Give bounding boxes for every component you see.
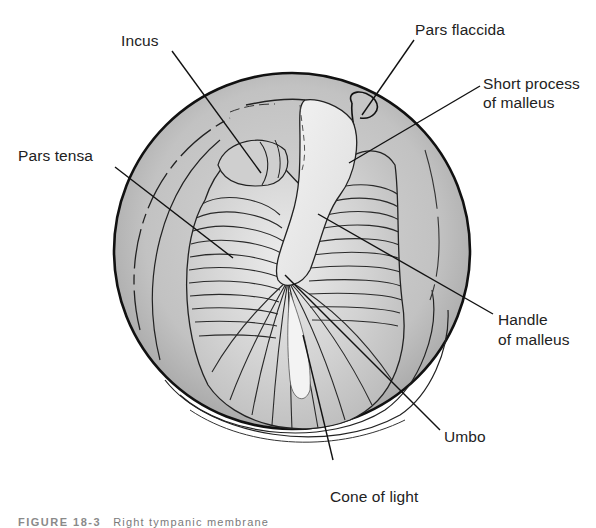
- label-short-process-line2: of malleus: [483, 93, 555, 112]
- tympanic-membrane-figure: Incus Pars flaccida Short process of mal…: [0, 0, 596, 528]
- figure-caption: FIGURE 18-3Right tympanic membrane: [18, 516, 269, 528]
- label-handle-line1: Handle: [498, 310, 548, 329]
- figure-caption-text: Right tympanic membrane: [113, 516, 269, 528]
- label-short-process-line1: Short process: [483, 74, 580, 93]
- label-incus: Incus: [121, 31, 159, 50]
- label-cone-of-light: Cone of light: [330, 487, 418, 506]
- label-umbo: Umbo: [444, 427, 486, 446]
- label-pars-tensa: Pars tensa: [18, 146, 93, 165]
- figure-number: FIGURE 18-3: [18, 516, 101, 528]
- label-handle-line2: of malleus: [498, 330, 570, 349]
- label-pars-flaccida: Pars flaccida: [415, 20, 505, 39]
- pars-tensa-membrane: [187, 150, 405, 430]
